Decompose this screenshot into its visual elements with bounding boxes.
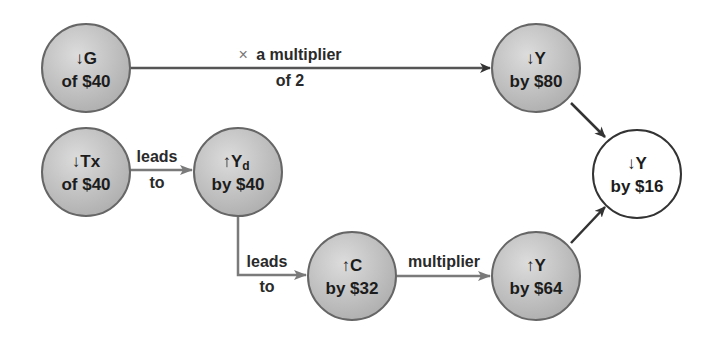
node-value: of $40 — [61, 175, 110, 194]
node-decrease-y-80: ↓Y by $80 — [492, 24, 580, 112]
node-value: by $32 — [326, 279, 379, 298]
node-decrease-tx: ↓Tx of $40 — [42, 128, 130, 216]
node-title: ↑C — [342, 256, 363, 275]
edge-label-leads: leads — [137, 148, 178, 165]
edge-g-to-y80: × a multiplier of 2 — [130, 46, 490, 89]
edge-label-of-2: of 2 — [276, 72, 305, 89]
edge-label-to: to — [149, 174, 164, 191]
node-increase-c: ↑C by $32 — [308, 232, 396, 320]
edge-label-multiplier: multiplier — [408, 253, 480, 270]
node-increase-yd: ↑Yd by $40 — [194, 128, 282, 216]
node-title: ↓Y — [526, 49, 547, 68]
edge-label-multiplier: a multiplier — [256, 46, 341, 63]
edge-c-to-y64: multiplier — [396, 253, 490, 276]
node-value: of $40 — [61, 72, 110, 91]
diagram-canvas: × a multiplier of 2 leads to leads to mu… — [0, 0, 719, 344]
node-value: by $16 — [611, 177, 664, 196]
edge-label-leads: leads — [247, 253, 288, 270]
node-value: by $64 — [510, 279, 563, 298]
node-decrease-g: ↓G of $40 — [42, 24, 130, 112]
node-title: ↑Y — [526, 256, 547, 275]
node-title: ↓Y — [627, 154, 648, 173]
node-increase-y-64: ↑Y by $64 — [492, 232, 580, 320]
node-result-decrease-y-16: ↓Y by $16 — [593, 130, 681, 218]
multiply-icon: × — [238, 46, 247, 63]
edge-y64-to-y16 — [571, 207, 605, 243]
node-subscript: d — [242, 159, 249, 173]
node-value: by $80 — [510, 72, 563, 91]
node-title: ↑Y — [222, 152, 243, 171]
edge-y80-to-y16 — [571, 103, 605, 137]
node-title: ↓G — [75, 49, 97, 68]
edge-label-to: to — [259, 278, 274, 295]
edge-yd-to-c: leads to — [238, 216, 306, 295]
node-value: by $40 — [212, 175, 265, 194]
svg-text:× a multiplier: × a multiplier — [238, 46, 341, 63]
node-title: ↓Tx — [72, 152, 101, 171]
edge-tx-to-yd: leads to — [130, 148, 192, 191]
